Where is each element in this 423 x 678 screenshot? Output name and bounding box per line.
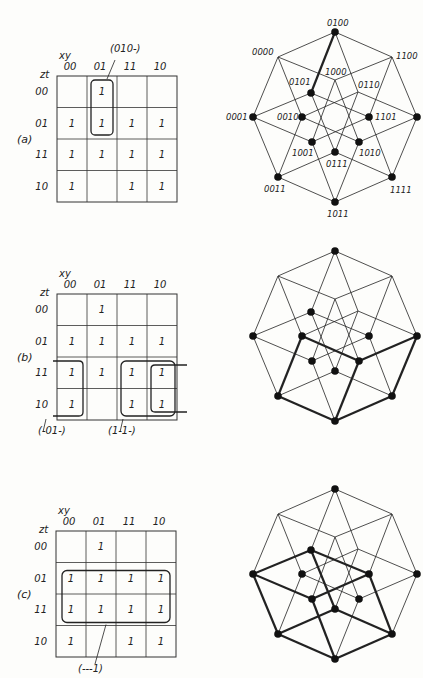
col-var-label: xy (58, 268, 72, 279)
vertex-dot (308, 595, 316, 603)
vertex-dot (307, 89, 315, 97)
hypercube-edge (278, 514, 302, 574)
vertex-dot (365, 570, 373, 578)
vertex-dot (331, 417, 339, 425)
col-label: 10 (153, 516, 166, 527)
vertex-dot (355, 357, 363, 365)
col-label: 01 (94, 279, 107, 290)
kmap-cell-value: 1 (159, 336, 165, 347)
kmap-cell-value: 1 (159, 149, 165, 160)
kmap-cell-value: 1 (159, 399, 165, 410)
vertex-dot (413, 113, 421, 121)
col-label: 11 (124, 61, 137, 72)
kmap-cell-value: 1 (69, 367, 75, 378)
vertex-dot (388, 173, 396, 181)
vertex-dot (388, 630, 396, 638)
vertex-label: 0110 (358, 80, 380, 90)
row-label: 00 (35, 304, 48, 315)
col-var-label: xy (57, 505, 71, 516)
panel-a: xyzt0001111000011110111111111111(a)(010-… (17, 18, 421, 219)
implicant-label: (-01-) (38, 425, 66, 436)
kmap-cell-value: 1 (69, 399, 75, 410)
implicant-label: (1-1-) (108, 425, 136, 436)
col-label: 10 (154, 61, 167, 72)
kmap-cell-value: 1 (99, 86, 105, 97)
figure-canvas: xyzt0001111000011110111111111111(a)(010-… (0, 0, 423, 678)
kmap-cell-value: 1 (129, 118, 135, 129)
vertex-dot (331, 655, 339, 663)
vertex-dot (298, 570, 306, 578)
row-label: 01 (34, 573, 47, 584)
col-label: 11 (123, 516, 136, 527)
vertex-dot (307, 308, 315, 316)
vertex-dot (331, 198, 339, 206)
hypercube-edge (278, 514, 335, 537)
col-label: 10 (154, 279, 167, 290)
vertex-dot (249, 332, 257, 340)
hypercube-edge (335, 276, 392, 299)
vertex-dot (355, 138, 363, 146)
vertex-dot (365, 113, 373, 121)
row-var-label: zt (38, 524, 49, 535)
vertex-label: 0101 (289, 77, 311, 87)
implicant-loops (43, 361, 187, 432)
vertex-label: 0001 (226, 112, 248, 122)
vertex-label: 1011 (327, 209, 349, 219)
vertex-dot (308, 138, 316, 146)
panel-label: (a) (17, 133, 32, 146)
hypercube-edge (335, 514, 392, 537)
vertex-label: 0011 (264, 184, 286, 194)
row-label: 10 (35, 399, 48, 410)
vertex-label: 0100 (327, 18, 349, 28)
kmap-cell-value: 1 (99, 118, 105, 129)
vertex-label: 1111 (390, 185, 412, 195)
karnaugh-map: xyzt0001111000011110111111111111 (35, 268, 177, 420)
kmap-cell-value: 1 (98, 541, 104, 552)
vertex-label: 1100 (396, 51, 418, 61)
kmap-cell-value: 1 (158, 573, 164, 584)
row-label: 01 (35, 336, 48, 347)
vertex-dot (249, 570, 257, 578)
kmap-cell-value: 1 (69, 336, 75, 347)
kmap-cell-value: 1 (68, 573, 74, 584)
kmap-cell-value: 1 (69, 118, 75, 129)
kmap-cell-value: 1 (128, 604, 134, 615)
vertex-dot (331, 148, 339, 156)
implicant-label: (---1) (78, 663, 103, 674)
kmap-cell-value: 1 (128, 573, 134, 584)
vertex-label: 1001 (292, 148, 314, 158)
kmap-cell-value: 1 (68, 636, 74, 647)
implicant-label: (010-) (110, 43, 141, 54)
row-var-label: zt (39, 69, 50, 80)
hypercube-graph (249, 485, 421, 663)
row-label: 01 (35, 118, 48, 129)
vertex-dot (274, 173, 282, 181)
vertex-label: 0000 (252, 47, 274, 57)
kmap-cell-value: 1 (99, 336, 105, 347)
kmap-cell-value: 1 (98, 604, 104, 615)
vertex-label: 1010 (359, 148, 381, 158)
hypercube-edge (278, 276, 335, 299)
panel-b: xyzt0001111000011110111111111111(b)(-01-… (17, 247, 421, 436)
hypercube-edge (278, 57, 302, 117)
row-label: 11 (35, 149, 48, 160)
kmap-cell-value: 1 (129, 149, 135, 160)
hypercube-graph: 0100000011001000010101100001001011011001… (226, 18, 421, 219)
col-label: 11 (124, 279, 137, 290)
kmap-cell-value: 1 (99, 304, 105, 315)
row-label: 10 (34, 636, 47, 647)
col-label: 00 (64, 61, 77, 72)
vertex-dot (331, 605, 339, 613)
kmap-cell-value: 1 (129, 367, 135, 378)
kmap-cell-value: 1 (68, 604, 74, 615)
kmap-cell-value: 1 (129, 336, 135, 347)
panel-c: xyzt0001111000011110111111111111(c)(---1… (17, 485, 421, 674)
karnaugh-map: xyzt0001111000011110111111111111 (34, 505, 176, 657)
kmap-cell-value: 1 (129, 399, 135, 410)
kmap-cell-value: 1 (159, 367, 165, 378)
vertex-dot (365, 332, 373, 340)
col-label: 01 (93, 516, 106, 527)
vertex-dot (331, 367, 339, 375)
vertex-dot (307, 546, 315, 554)
panel-label: (c) (17, 588, 32, 601)
